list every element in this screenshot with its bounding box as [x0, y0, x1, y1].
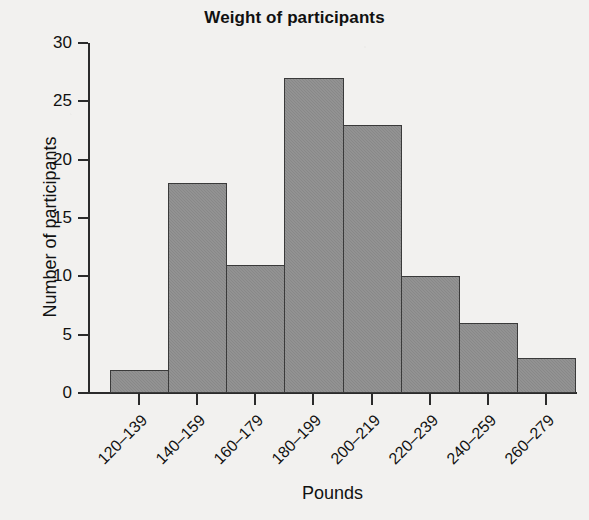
x-axis-tick: [429, 394, 431, 405]
histogram-bar: [517, 358, 576, 393]
y-axis-tick: [78, 392, 88, 394]
x-axis-title: Pounds: [88, 484, 577, 502]
x-axis-tick: [312, 394, 314, 405]
y-axis-tick: [78, 217, 88, 219]
y-axis-tick: [78, 275, 88, 277]
x-axis-tick: [487, 394, 489, 405]
histogram-bar: [168, 183, 227, 393]
x-axis-tick: [371, 394, 373, 405]
y-axis-tick: [78, 42, 88, 44]
histogram-bar: [343, 125, 402, 393]
y-axis-tick-label: 5: [12, 326, 72, 343]
y-axis-line: [88, 43, 90, 394]
y-axis-tick: [78, 334, 88, 336]
histogram-bar: [110, 370, 169, 393]
y-axis-tick-label: 30: [12, 34, 72, 51]
histogram-chart: Weight of participants Number of partici…: [0, 0, 589, 520]
y-axis-tick-label: 0: [12, 384, 72, 401]
x-axis-tick: [138, 394, 140, 405]
x-axis-tick: [196, 394, 198, 405]
y-axis-tick-label: 25: [12, 92, 72, 109]
x-axis-tick: [545, 394, 547, 405]
x-axis-tick: [254, 394, 256, 405]
histogram-bar: [401, 276, 460, 393]
y-axis-tick-label: 15: [12, 209, 72, 226]
histogram-bar: [226, 265, 285, 393]
y-axis-tick-label: 20: [12, 151, 72, 168]
y-axis-tick-label: 10: [12, 267, 72, 284]
y-axis-tick: [78, 159, 88, 161]
y-axis-tick: [78, 100, 88, 102]
histogram-bar: [284, 78, 343, 393]
chart-title: Weight of participants: [0, 8, 589, 28]
histogram-bar: [459, 323, 518, 393]
